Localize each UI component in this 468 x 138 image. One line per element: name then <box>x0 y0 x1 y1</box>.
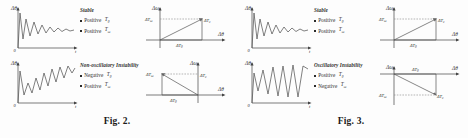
hypotenuse-resultant <box>394 74 436 95</box>
bullet-icon <box>80 30 82 32</box>
legend-title: Stable <box>80 7 142 13</box>
fig3-row-stable: Δθ t 0 Stable Positive Tθ Positive <box>234 2 468 57</box>
legend-list: Negative Tθ Positive Tω <box>80 71 142 92</box>
legend-item-text: Negative <box>84 72 103 79</box>
bullet-icon <box>314 75 316 77</box>
legend-item-text: Positive <box>84 17 101 24</box>
hypotenuse-resultant <box>160 19 202 40</box>
legend-item: Positive Tθ <box>80 16 142 26</box>
legend-item: Negative Tω <box>314 81 376 91</box>
horizontal-leg-label: ΔTθ <box>169 98 177 104</box>
growing-oscillation-curve <box>252 65 308 103</box>
legend-item-symbol: Tθ <box>107 71 112 81</box>
legend-item: Positive Tω <box>80 81 142 91</box>
legend-item-symbol: Tθ <box>339 71 344 81</box>
horizontal-leg-label: ΔTθ <box>175 43 183 49</box>
x-axis-arrow <box>222 39 226 42</box>
fig2-row-nonoscillatory: Δθ t 0 Non-oscillatory Instability Negat… <box>0 57 234 112</box>
hypotenuse-resultant <box>394 19 436 40</box>
y-axis-arrow <box>250 7 253 11</box>
legend-item-text: Positive <box>318 17 335 24</box>
legend-item: Negative Tθ <box>80 71 142 81</box>
figure-3-caption: Fig. 3. <box>234 116 468 126</box>
x-axis-arrow <box>456 39 460 42</box>
x-axis-arrow <box>222 94 226 97</box>
legend-item: Positive Tω <box>80 26 142 36</box>
fig2-stable-legend: Stable Positive Tθ Positive Tω <box>80 7 142 53</box>
fig2-row-stable: Δθ t 0 Stable Positive Tθ Positive <box>0 2 234 57</box>
hypotenuse-label: ΔTc <box>203 18 211 24</box>
y-axis-label: Δθ <box>10 60 17 66</box>
legend-list: Positive Tθ Negative Tω <box>314 71 376 92</box>
bullet-icon <box>314 30 316 32</box>
legend-list: Positive Tθ Positive Tω <box>314 16 376 37</box>
fig3-stable-vector-diagram: Δω Δθ ΔTω ΔTc ΔTθ <box>374 2 466 57</box>
y-axis-arrow <box>250 62 253 66</box>
legend-item-text: Positive <box>318 72 335 79</box>
legend-item: Positive Tθ <box>314 71 376 81</box>
x-axis-label: t <box>309 104 311 109</box>
y-axis-arrow <box>16 7 19 11</box>
y-axis-label: Δω <box>189 60 197 66</box>
origin-label: 0 <box>14 103 17 108</box>
legend-item: Positive Tθ <box>314 16 376 26</box>
vertical-leg-label: ΔTω <box>145 72 154 78</box>
legend-title: Non-oscillatory Instability <box>80 62 142 68</box>
damped-oscillation-curve <box>252 13 308 48</box>
y-axis-label: Δω <box>151 5 159 11</box>
y-axis-label: Δω <box>385 5 393 11</box>
legend-item-symbol: Tω <box>105 81 110 91</box>
y-axis-label: Δω <box>385 64 393 70</box>
vertical-leg-label: ΔTω <box>378 17 387 23</box>
legend-item: Positive Tω <box>314 26 376 36</box>
vertical-leg-label: ΔTω <box>378 93 387 99</box>
fig3-stable-legend: Stable Positive Tθ Positive Tω <box>314 7 376 53</box>
y-axis-label: Δθ <box>10 5 17 11</box>
legend-item-symbol: Tω <box>339 26 344 36</box>
legend-list: Positive Tθ Positive Tω <box>80 16 142 37</box>
fig3-oscillatory-legend: Oscillatory Instability Positive Tθ Nega… <box>314 62 376 108</box>
origin-label: 0 <box>14 48 17 53</box>
horizontal-leg-label: ΔTθ <box>409 43 417 49</box>
x-axis-label: Δθ <box>217 86 224 92</box>
x-axis-label: t <box>309 49 311 54</box>
bullet-icon <box>80 85 82 87</box>
figure-2: Δθ t 0 Stable Positive Tθ Positive <box>0 0 234 138</box>
figures-page: Δθ t 0 Stable Positive Tθ Positive <box>0 0 468 138</box>
fig2-nonoscillatory-legend: Non-oscillatory Instability Negative Tθ … <box>80 62 142 108</box>
x-axis-arrow <box>456 73 460 76</box>
horizontal-leg-label: ΔTθ <box>411 67 419 73</box>
legend-item-text: Negative <box>318 83 337 90</box>
y-axis-label: Δθ <box>244 60 251 66</box>
bullet-icon <box>314 85 316 87</box>
fig2-nonoscillatory-vector-diagram: Δω Δθ ΔTω ΔTc ΔTθ <box>140 57 232 112</box>
bullet-icon <box>80 20 82 22</box>
y-axis-label: Δθ <box>244 5 251 11</box>
fig3-oscillatory-trace-plot: Δθ t 0 <box>240 57 316 112</box>
hypotenuse-resultant <box>162 74 198 95</box>
vertical-leg-label: ΔTω <box>144 17 153 23</box>
x-axis-label: Δθ <box>217 31 224 37</box>
origin-label: 0 <box>248 103 251 108</box>
hypotenuse-label: ΔTc <box>199 73 207 79</box>
hypotenuse-label: ΔTc <box>436 94 444 100</box>
fig2-stable-trace-plot: Δθ t 0 <box>6 2 82 57</box>
x-axis-label: Δθ <box>451 31 458 37</box>
legend-item-symbol: Tθ <box>105 16 110 26</box>
legend-item-text: Positive <box>84 28 101 35</box>
legend-title: Oscillatory Instability <box>314 62 376 68</box>
legend-item-symbol: Tω <box>105 26 110 36</box>
damped-oscillation-curve <box>18 13 74 48</box>
fig3-stable-trace-plot: Δθ t 0 <box>240 2 316 57</box>
legend-item-symbol: Tω <box>341 81 346 91</box>
x-axis-label: Δθ <box>451 65 458 71</box>
legend-item-text: Positive <box>318 28 335 35</box>
legend-item-text: Positive <box>84 83 101 90</box>
fig2-stable-vector-diagram: Δω Δθ ΔTω ΔTc ΔTθ <box>140 2 232 57</box>
growing-drift-curve <box>18 66 75 103</box>
bullet-icon <box>80 75 82 77</box>
fig3-row-oscillatory: Δθ t 0 Oscillatory Instability Positive … <box>234 57 468 112</box>
legend-title: Stable <box>314 7 376 13</box>
legend-item-symbol: Tθ <box>339 16 344 26</box>
fig2-nonoscillatory-trace-plot: Δθ t 0 <box>6 57 82 112</box>
